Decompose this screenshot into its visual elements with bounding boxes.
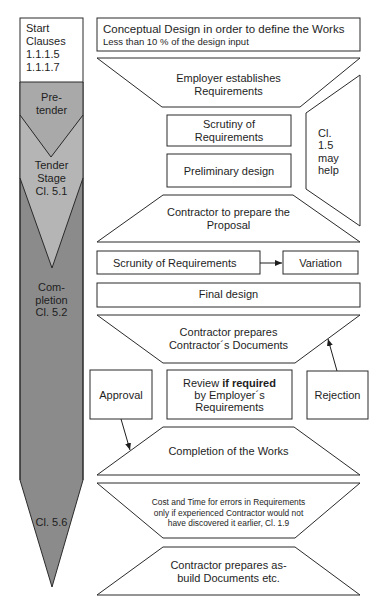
review-line-1: Review if required xyxy=(167,377,292,389)
completion-line-3: Cl. 5.2 xyxy=(20,306,83,319)
review-prefix: Review xyxy=(183,377,222,389)
cl-1-5-line-3: may xyxy=(318,152,339,164)
cost-and-time-label: Cost and Time for errors in Requirements… xyxy=(97,497,360,529)
scrutiny-requirements-label: Scrunity of Requirements xyxy=(113,257,237,270)
approval-label: Approval xyxy=(90,389,152,402)
contractor-documents-line-1: Contractor prepares xyxy=(97,326,360,339)
design-process-diagram: Start Clauses 1.1.1.5 1.1.1.7 Pre- tende… xyxy=(0,0,384,610)
start-line: Start xyxy=(26,22,66,35)
scrutiny-label: Scrutiny of Requirements xyxy=(167,118,291,144)
proposal-label: Contractor to prepare the Proposal xyxy=(97,206,360,232)
as-build-line-1: Contractor prepares as- xyxy=(97,559,360,572)
conceptual-design-subtitle: Less than 10 % of the design input xyxy=(103,35,249,48)
cost-and-time-line-3: have discovered it earlier, Cl. 1.9 xyxy=(97,518,360,529)
as-build-documents-label: Contractor prepares as- build Documents … xyxy=(97,559,360,584)
variation-label: Variation xyxy=(283,257,358,270)
tender-stage-label: Tender Stage Cl. 5.1 xyxy=(20,159,83,198)
preliminary-design-label: Preliminary design xyxy=(167,165,291,178)
completion-line-2: pletion xyxy=(20,294,83,307)
clauses-line: Clauses xyxy=(26,35,66,48)
start-clauses-label: Start Clauses 1.1.1.5 1.1.1.7 xyxy=(26,22,66,74)
cl-1-5-line-4: help xyxy=(318,164,339,176)
completion-line-1: Com- xyxy=(20,281,83,294)
completion-of-works-label: Completion of the Works xyxy=(97,445,360,458)
cl-1-5-note-label: Cl. 1.5 may help xyxy=(318,127,339,176)
cost-and-time-line-1: Cost and Time for errors in Requirements xyxy=(97,497,360,508)
cl-1-5-line-1: Cl. xyxy=(318,127,339,139)
tender-stage-line-2: Stage xyxy=(20,172,83,185)
contractor-documents-label: Contractor prepares Contractor´s Documen… xyxy=(97,326,360,352)
rejection-label: Rejection xyxy=(307,389,368,402)
cl-5-6-label: Cl. 5.6 xyxy=(20,516,83,529)
review-line-2: by Employer´s xyxy=(167,389,292,401)
cost-and-time-line-2: only if experienced Contractor would not xyxy=(97,508,360,519)
pre-tender-line-2: tender xyxy=(20,104,83,117)
completion-label: Com- pletion Cl. 5.2 xyxy=(20,281,83,319)
employer-requirements-line-2: Requirements xyxy=(97,85,360,98)
employer-requirements-line-1: Employer establishes xyxy=(97,72,360,85)
tender-stage-line-1: Tender xyxy=(20,159,83,172)
scrutiny-line-1: Scrutiny of xyxy=(167,118,291,131)
cl-1-5-line-2: 1.5 xyxy=(318,139,339,151)
final-design-label: Final design xyxy=(97,288,360,301)
review-line-3: Requirements xyxy=(167,401,292,413)
employer-requirements-label: Employer establishes Requirements xyxy=(97,72,360,98)
pre-tender-label: Pre- tender xyxy=(20,91,83,116)
contractor-documents-line-2: Contractor´s Documents xyxy=(97,339,360,352)
proposal-line-2: Proposal xyxy=(97,219,360,232)
scrutiny-line-2: Requirements xyxy=(167,131,291,144)
clause-1-1-1-7: 1.1.1.7 xyxy=(26,61,66,74)
proposal-line-1: Contractor to prepare the xyxy=(97,206,360,219)
review-label: Review if required by Employer´s Require… xyxy=(167,377,292,413)
pre-tender-line-1: Pre- xyxy=(20,91,83,104)
as-build-line-2: build Documents etc. xyxy=(97,572,360,585)
tender-stage-line-3: Cl. 5.1 xyxy=(20,185,83,198)
clause-1-1-1-5: 1.1.1.5 xyxy=(26,48,66,61)
review-if-required: if required xyxy=(222,377,276,389)
